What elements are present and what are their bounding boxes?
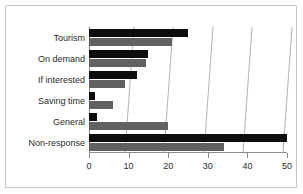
bar-tourism-series-1 bbox=[89, 29, 188, 37]
y-axis-label-general: General bbox=[53, 117, 85, 127]
x-tick-label-0: 0 bbox=[77, 161, 101, 172]
bar-group bbox=[89, 69, 287, 90]
x-axis-tick-labels: 01020304050 bbox=[89, 161, 299, 175]
bar-on-demand-series-2 bbox=[89, 59, 146, 67]
bar-non-response-series-1 bbox=[89, 134, 287, 142]
x-tick-mark-20 bbox=[168, 153, 169, 158]
bar-tourism-series-2 bbox=[89, 38, 172, 46]
bar-saving-time-series-2 bbox=[89, 101, 113, 109]
bar-saving-time-series-1 bbox=[89, 92, 95, 100]
x-tick-label-30: 30 bbox=[196, 161, 220, 172]
bar-if-interested-series-1 bbox=[89, 71, 137, 79]
bar-on-demand-series-1 bbox=[89, 50, 148, 58]
bar-non-response-series-2 bbox=[89, 143, 224, 151]
bar-if-interested-series-2 bbox=[89, 80, 125, 88]
x-tick-label-10: 10 bbox=[117, 161, 141, 172]
bar-group bbox=[89, 27, 287, 48]
x-tick-mark-40 bbox=[247, 153, 248, 158]
y-axis-label-tourism: Tourism bbox=[53, 33, 85, 43]
x-tick-label-50: 50 bbox=[275, 161, 299, 172]
x-tick-mark-30 bbox=[208, 153, 209, 158]
x-tick-label-20: 20 bbox=[156, 161, 180, 172]
bar-general-series-2 bbox=[89, 122, 168, 130]
x-tick-mark-10 bbox=[129, 153, 130, 158]
y-axis-category-labels: TourismOn demandIf interestedSaving time… bbox=[14, 27, 85, 153]
bar-group bbox=[89, 90, 287, 111]
x-tick-mark-50 bbox=[287, 153, 288, 158]
y-axis-label-saving-time: Saving time bbox=[38, 96, 85, 106]
x-tick-label-40: 40 bbox=[235, 161, 259, 172]
y-axis-label-on-demand: On demand bbox=[38, 54, 85, 64]
chart-figure: TourismOn demandIf interestedSaving time… bbox=[0, 0, 303, 194]
plot-area bbox=[89, 27, 287, 153]
y-axis-label-if-interested: If interested bbox=[38, 75, 85, 85]
x-tick-mark-0 bbox=[89, 153, 90, 158]
bar-group bbox=[89, 48, 287, 69]
y-axis-label-non-response: Non-response bbox=[28, 138, 85, 148]
bar-group bbox=[89, 111, 287, 132]
bar-general-series-1 bbox=[89, 113, 97, 121]
bar-group bbox=[89, 132, 287, 153]
chart-frame: TourismOn demandIf interestedSaving time… bbox=[5, 5, 297, 188]
